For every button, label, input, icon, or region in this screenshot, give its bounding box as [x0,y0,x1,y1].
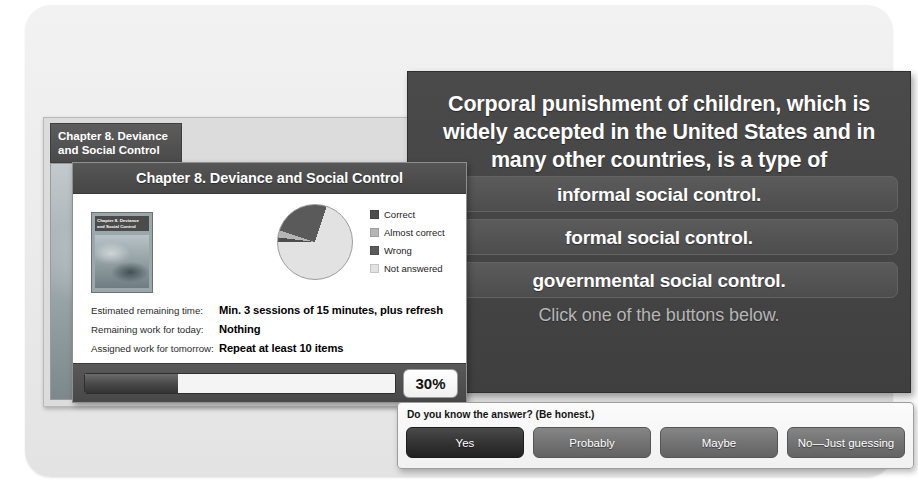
legend-item-correct: Correct [370,206,465,222]
legend-label: Not answered [384,263,443,274]
book-cover-photo [95,235,149,288]
confidence-question-text: Do you know the answer? (Be honest.) [407,409,594,420]
progress-bar-fill [85,374,178,393]
background-window-titlebar[interactable]: Chapter 8. Deviance and Social Control [50,123,182,163]
stats-label: Remaining work for today: [91,324,219,335]
answer-options-list: informal social control. formal social c… [420,176,898,305]
confidence-buttons: Yes Probably Maybe No—Just guessing [406,427,905,458]
confidence-button-no-just-guessing[interactable]: No—Just guessing [787,427,905,458]
legend-item-not-answered: Not answered [370,260,465,276]
pie-chart-legend: Correct Almost correct Wrong Not answere… [370,206,465,278]
answer-option-1[interactable]: informal social control. [420,176,898,212]
legend-swatch-icon [370,210,379,219]
legend-label: Wrong [384,245,412,256]
stats-value: Nothing [219,323,261,335]
background-window-title-line2: and Social Control [58,144,174,158]
progress-percent-label: 30% [403,369,458,398]
answer-option-3[interactable]: governmental social control. [420,262,898,298]
legend-swatch-icon [370,246,379,255]
stats-label: Assigned work for tomorrow: [91,343,219,354]
confidence-button-maybe[interactable]: Maybe [660,427,778,458]
stats-row: Remaining work for today: Nothing [91,323,456,342]
legend-swatch-icon [370,264,379,273]
progress-pie-chart [277,204,353,280]
legend-swatch-icon [370,228,379,237]
stats-label: Estimated remaining time: [91,305,219,316]
stats-value: Repeat at least 10 items [219,342,343,354]
progress-bar [84,373,396,394]
confidence-panel: Do you know the answer? (Be honest.) Yes… [397,402,914,469]
book-cover-title-line2: and Social Control [97,224,147,230]
stats-window-titlebar[interactable]: Chapter 8. Deviance and Social Control [73,163,466,194]
legend-item-almost-correct: Almost correct [370,224,465,240]
question-panel: Corporal punishment of children, which i… [407,71,911,393]
stats-value: Min. 3 sessions of 15 minutes, plus refr… [219,304,443,316]
book-cover-title: Chapter 8. Deviance and Social Control [95,216,149,231]
background-window-title-line1: Chapter 8. Deviance [58,130,174,144]
answer-option-2[interactable]: formal social control. [420,219,898,255]
question-text: Corporal punishment of children, which i… [424,90,894,174]
stats-window: Chapter 8. Deviance and Social Control C… [72,162,467,403]
confidence-button-yes[interactable]: Yes [406,427,524,458]
legend-label: Correct [384,209,415,220]
stats-window-body: Chapter 8. Deviance and Social Control C… [73,194,466,364]
book-cover-thumbnail[interactable]: Chapter 8. Deviance and Social Control [91,212,153,293]
legend-label: Almost correct [384,227,445,238]
legend-item-wrong: Wrong [370,242,465,258]
stats-row: Assigned work for tomorrow: Repeat at le… [91,342,456,361]
app-frame: Chapter 8. Deviance and Social Control C… [25,5,893,477]
answer-hint-text: Click one of the buttons below. [420,305,898,326]
stats-window-footer: 30% [73,363,466,402]
stats-rows: Estimated remaining time: Min. 3 session… [91,304,456,361]
confidence-button-probably[interactable]: Probably [533,427,651,458]
stats-row: Estimated remaining time: Min. 3 session… [91,304,456,323]
